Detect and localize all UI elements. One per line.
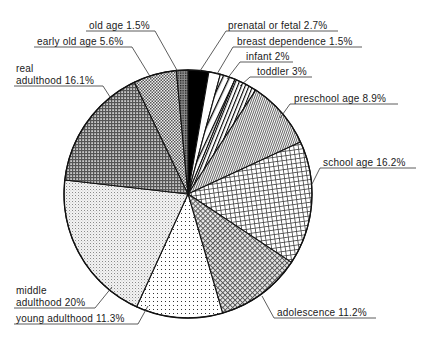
leader-line bbox=[132, 47, 151, 78]
slice-label: toddler 3% bbox=[257, 66, 307, 77]
pie-slices bbox=[64, 70, 312, 318]
leader-line bbox=[155, 31, 178, 72]
slice-label: real bbox=[16, 63, 33, 74]
slice-label: old age 1.5% bbox=[89, 20, 150, 31]
leader-line bbox=[312, 168, 320, 184]
slice-label: middle bbox=[16, 285, 47, 296]
leader-line bbox=[95, 287, 112, 308]
slice-label: adulthood 16.1% bbox=[16, 75, 94, 86]
slice-label: breast dependence 1.5% bbox=[237, 36, 353, 47]
leader-line bbox=[262, 296, 274, 318]
slice-label: adulthood 20% bbox=[16, 297, 85, 308]
leader-line bbox=[227, 62, 240, 79]
slice-label: preschool age 8.9% bbox=[294, 93, 386, 104]
slice-label: infant 2% bbox=[246, 51, 290, 62]
pie-chart: prenatal or fetal 2.7%breast dependence … bbox=[0, 0, 430, 342]
slice-label: school age 16.2% bbox=[323, 157, 406, 168]
slice-label: prenatal or fetal 2.7% bbox=[228, 20, 327, 31]
leader-line bbox=[217, 47, 233, 74]
slice-label: adolescence 11.2% bbox=[277, 307, 367, 318]
slice-label: early old age 5.6% bbox=[37, 36, 123, 47]
leader-line bbox=[103, 86, 112, 100]
slice-label: young adulthood 11.3% bbox=[16, 313, 125, 324]
